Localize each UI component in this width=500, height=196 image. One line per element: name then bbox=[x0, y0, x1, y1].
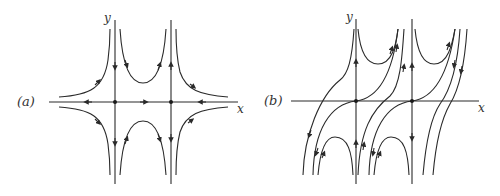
arrow-icon bbox=[403, 66, 404, 72]
phase-portrait-figure: (a) x y bbox=[0, 0, 500, 196]
panel-a: (a) x y bbox=[17, 11, 244, 184]
trajectory bbox=[303, 29, 354, 175]
saddle-point bbox=[354, 99, 358, 103]
trajectory bbox=[59, 107, 110, 175]
arrow-icon bbox=[447, 44, 449, 50]
panel-a-label: (a) bbox=[17, 94, 35, 109]
panel-b: (b) x y bbox=[264, 10, 485, 184]
saddle-point bbox=[169, 100, 173, 104]
panel-b-y-axis-label: y bbox=[345, 10, 353, 24]
arrow-icon bbox=[373, 148, 374, 154]
trajectory bbox=[176, 107, 228, 175]
arrow-icon bbox=[378, 153, 380, 158]
panel-a-y-axis-label: y bbox=[103, 11, 111, 25]
arrow-icon bbox=[316, 148, 318, 154]
trajectory bbox=[423, 29, 460, 175]
trajectory bbox=[120, 29, 166, 83]
arrow-icon bbox=[322, 153, 324, 158]
panel-b-x-axis-label: x bbox=[478, 101, 485, 115]
trajectory bbox=[59, 29, 110, 97]
arrow-icon bbox=[454, 60, 455, 66]
saddle-point bbox=[113, 100, 117, 104]
panel-a-x-axis-label: x bbox=[237, 102, 244, 116]
arrow-icon bbox=[190, 84, 194, 87]
trajectory bbox=[176, 29, 228, 97]
trajectory bbox=[358, 29, 404, 175]
arrow-icon bbox=[363, 144, 364, 150]
trajectory bbox=[120, 121, 166, 175]
saddle-point bbox=[410, 99, 414, 103]
arrow-icon bbox=[396, 46, 397, 52]
trajectory bbox=[433, 29, 467, 175]
panel-b-label: (b) bbox=[264, 93, 282, 108]
arrow-icon bbox=[188, 120, 192, 123]
